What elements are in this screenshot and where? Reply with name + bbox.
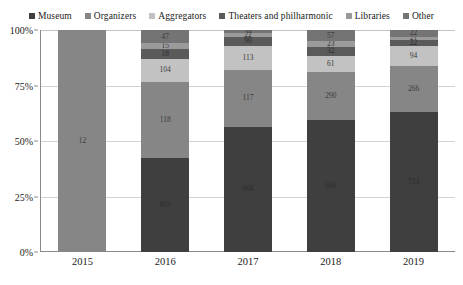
- bar-segment-value-label: 118: [160, 116, 171, 124]
- y-axis-tick-mark: [34, 85, 38, 86]
- bar-segment-value-label: 61: [327, 60, 335, 68]
- bar-stack: 57233261290610: [307, 30, 355, 252]
- bar-segment-value-label: 32: [327, 47, 335, 55]
- legend-swatch-icon: [85, 13, 91, 19]
- bar-segment-theaters-and-philharmonic[interactable]: 18: [141, 49, 189, 59]
- bar-segment-theaters-and-philharmonic[interactable]: 90: [224, 37, 272, 46]
- chart-legend: MuseumOrganizersAggregatorsTheaters and …: [0, 6, 463, 26]
- bar-segment-value-label: 22: [410, 30, 418, 37]
- y-axis-tick-label: 100%: [10, 25, 33, 36]
- x-axis-tick-label-2019: 2019: [403, 256, 424, 268]
- bar-column-2017[interactable]: 342290113117666: [224, 30, 272, 252]
- bar-segment-organizers[interactable]: 118: [141, 82, 189, 157]
- legend-item-libraries[interactable]: Libraries: [346, 11, 390, 21]
- legend-item-label: Aggregators: [158, 11, 206, 21]
- bar-segment-value-label: 290: [325, 92, 336, 100]
- y-axis-tick-label: 0%: [20, 247, 33, 258]
- bar-column-2016[interactable]: 471518104118603: [141, 30, 189, 252]
- bar-segment-other[interactable]: 47: [141, 30, 189, 43]
- bar-segment-value-label: 266: [408, 85, 419, 93]
- bar-segment-museum[interactable]: 603: [141, 158, 189, 252]
- bar-segment-value-label: 57: [327, 32, 335, 40]
- bar-segment-other[interactable]: 57: [307, 30, 355, 41]
- bar-segment-value-label: 18: [161, 50, 169, 58]
- bar-stack: 342290113117666: [224, 30, 272, 252]
- bar-segment-aggregators[interactable]: 61: [307, 56, 355, 73]
- legend-item-label: Theaters and philharmonic: [228, 11, 332, 21]
- bar-segment-value-label: 666: [242, 185, 253, 193]
- bar-segment-theaters-and-philharmonic[interactable]: 32: [307, 47, 355, 56]
- x-axis-tick-label-2016: 2016: [155, 256, 176, 268]
- y-axis-tick-label: 50%: [15, 136, 33, 147]
- bar-segment-value-label: 113: [243, 54, 254, 62]
- y-axis-tick-mark: [34, 30, 38, 31]
- y-axis-tick-mark: [34, 141, 38, 142]
- legend-item-label: Libraries: [355, 11, 390, 21]
- x-axis-tick-label-2018: 2018: [320, 256, 341, 268]
- y-axis-tick-mark: [34, 196, 38, 197]
- bar-segment-organizers[interactable]: 117: [224, 70, 272, 127]
- bar-segment-value-label: 12: [79, 137, 87, 145]
- legend-item-theaters-and-philharmonic[interactable]: Theaters and philharmonic: [219, 11, 332, 21]
- stacked-column-chart: MuseumOrganizersAggregatorsTheaters and …: [0, 0, 463, 285]
- y-axis-tick-label: 25%: [15, 191, 33, 202]
- bar-segment-organizers[interactable]: 266: [390, 66, 438, 113]
- bar-segment-museum[interactable]: 666: [224, 127, 272, 252]
- bar-segment-other[interactable]: 22: [390, 30, 438, 37]
- y-axis-tick-mark: [34, 252, 38, 253]
- legend-item-label: Other: [412, 11, 434, 21]
- bar-segment-value-label: 94: [410, 52, 418, 60]
- bar-segment-museum[interactable]: 610: [307, 120, 355, 252]
- bar-segment-organizers[interactable]: 290: [307, 72, 355, 120]
- y-axis-tick-label: 75%: [15, 80, 33, 91]
- y-axis: 0%25%50%75%100%: [0, 30, 38, 252]
- bar-column-2018[interactable]: 57233261290610: [307, 30, 355, 252]
- bar-segment-value-label: 90: [244, 37, 252, 45]
- bar-segment-value-label: 117: [243, 94, 254, 102]
- x-axis: 20152016201720182019: [41, 254, 455, 274]
- legend-swatch-icon: [149, 13, 155, 19]
- legend-item-museum[interactable]: Museum: [29, 11, 72, 21]
- legend-swatch-icon: [29, 13, 35, 19]
- legend-item-label: Museum: [38, 11, 72, 21]
- bars-layer: 1247151810411860334229011311766657233261…: [41, 30, 455, 252]
- legend-item-organizers[interactable]: Organizers: [85, 11, 137, 21]
- bar-segment-aggregators[interactable]: 104: [141, 59, 189, 82]
- bar-segment-aggregators[interactable]: 94: [390, 46, 438, 66]
- bar-segment-aggregators[interactable]: 113: [224, 46, 272, 70]
- bar-stack: 12: [58, 30, 106, 252]
- bar-column-2019[interactable]: 22212294266713: [390, 30, 438, 252]
- legend-swatch-icon: [403, 13, 409, 19]
- bar-stack: 471518104118603: [141, 30, 189, 252]
- bar-segment-value-label: 603: [160, 201, 171, 209]
- bar-segment-value-label: 47: [161, 33, 169, 41]
- legend-item-aggregators[interactable]: Aggregators: [149, 11, 206, 21]
- bar-column-2015[interactable]: 12: [58, 30, 106, 252]
- bar-segment-value-label: 104: [160, 66, 171, 74]
- legend-swatch-icon: [219, 13, 225, 19]
- legend-item-other[interactable]: Other: [403, 11, 434, 21]
- bar-stack: 22212294266713: [390, 30, 438, 252]
- bar-segment-museum[interactable]: 713: [390, 112, 438, 252]
- bar-segment-organizers[interactable]: 12: [58, 30, 106, 252]
- legend-swatch-icon: [346, 13, 352, 19]
- x-axis-tick-label-2015: 2015: [72, 256, 93, 268]
- bar-segment-value-label: 713: [408, 178, 419, 186]
- legend-item-label: Organizers: [94, 11, 137, 21]
- bar-segment-value-label: 610: [325, 182, 336, 190]
- x-axis-tick-label-2017: 2017: [238, 256, 259, 268]
